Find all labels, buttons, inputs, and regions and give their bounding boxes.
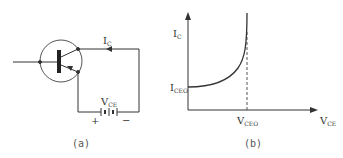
vceo-label: VCEO [236,115,258,127]
base-bar [57,50,61,73]
caption-a: (a) [72,138,90,149]
x-axis-label: VCE [319,115,336,127]
minus-sign: − [122,115,130,126]
voltage-label: VCE [100,96,117,108]
current-label: IC [103,35,112,47]
plus-sign: + [91,115,99,126]
y-axis-label: IC [173,28,182,40]
circuit-panel-a [13,40,139,116]
emitter-arrow-icon [67,66,73,71]
x-axis-arrow-icon [310,107,318,113]
emitter-wire [78,72,100,112]
iceo-label: ICEO [170,82,188,94]
y-axis-arrow-icon [185,12,191,20]
characteristic-curve [188,13,247,87]
base-junction-dot [39,61,42,64]
caption-b: (b) [244,138,262,149]
collector-lead [61,49,78,57]
diagram-canvas: IC VCE + − (a) IC ICEO VCEO VCE (b) [0,0,343,158]
graph-panel-b [185,12,318,113]
battery-icon [100,108,121,116]
